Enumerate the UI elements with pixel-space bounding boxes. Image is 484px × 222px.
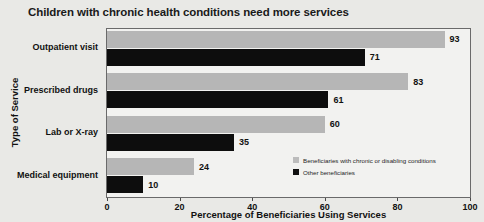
x-tick-mark (107, 198, 108, 201)
x-tick-mark (252, 198, 253, 201)
y-axis-label-prescribed-drugs: Prescribed drugs (24, 85, 98, 95)
legend-label-other: Other beneficiaries (303, 169, 355, 176)
y-axis-category-labels: Outpatient visitPrescribed drugsLab or X… (0, 28, 102, 198)
bar-chronic (107, 73, 408, 90)
bar-other (107, 49, 365, 66)
x-tick-mark (180, 198, 181, 201)
x-tick-mark (470, 198, 471, 201)
bar-value-label: 10 (148, 180, 158, 190)
x-tick-mark (397, 198, 398, 201)
bar-value-label: 35 (239, 137, 249, 147)
y-axis-label-outpatient-visit: Outpatient visit (32, 42, 98, 52)
x-axis-title: Percentage of Beneficiaries Using Servic… (106, 209, 471, 220)
chart-title: Children with chronic health conditions … (28, 6, 349, 18)
x-tick-mark (325, 198, 326, 201)
bar-value-label: 71 (370, 52, 380, 62)
bar-chronic (107, 158, 194, 175)
plot-area: 9371836160352410 Beneficiaries with chro… (106, 28, 471, 198)
bar-chronic (107, 116, 325, 133)
bar-value-label: 24 (199, 162, 209, 172)
y-axis-label-lab-or-x-ray: Lab or X-ray (45, 127, 98, 137)
bar-value-label: 60 (330, 119, 340, 129)
legend-swatch-other-icon (293, 169, 299, 175)
legend-item-other: Other beneficiaries (293, 167, 465, 177)
bar-chronic (107, 31, 445, 48)
bar-value-label: 61 (333, 95, 343, 105)
bar-value-label: 83 (413, 77, 423, 87)
y-axis-label-medical-equipment: Medical equipment (17, 170, 98, 180)
legend-item-chronic: Beneficiaries with chronic or disabling … (293, 155, 465, 165)
chart-figure: Children with chronic health conditions … (0, 0, 484, 222)
chart-legend: Beneficiaries with chronic or disabling … (293, 155, 465, 179)
bar-value-label: 93 (450, 34, 460, 44)
bar-other (107, 176, 143, 193)
bar-other (107, 134, 234, 151)
legend-label-chronic: Beneficiaries with chronic or disabling … (303, 157, 436, 164)
legend-swatch-chronic-icon (293, 157, 299, 163)
bar-other (107, 91, 328, 108)
